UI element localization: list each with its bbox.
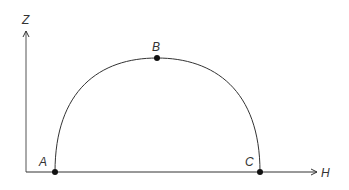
point-c-label: C xyxy=(245,155,254,169)
point-c xyxy=(257,169,263,175)
diagram-canvas: Z H A B C xyxy=(0,0,349,190)
point-b-label: B xyxy=(152,40,160,54)
point-a-label: A xyxy=(38,155,47,169)
z-axis-label: Z xyxy=(21,13,30,27)
point-b xyxy=(154,55,160,61)
point-a xyxy=(52,169,58,175)
arc-curve xyxy=(55,58,260,172)
h-axis-label: H xyxy=(321,166,330,180)
